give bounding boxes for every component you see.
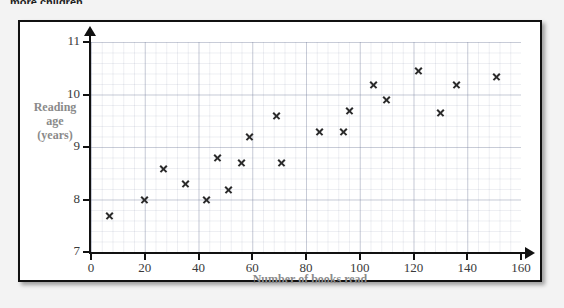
x-tick-140 [466, 253, 468, 260]
data-point [452, 80, 461, 89]
data-point [272, 111, 281, 120]
y-tick-label-11: 11 [60, 33, 80, 49]
plot-grid [91, 42, 521, 252]
data-point [414, 66, 423, 75]
data-point [237, 158, 246, 167]
x-axis [89, 252, 529, 254]
data-point [245, 132, 254, 141]
y-axis-title: Reading age (years) [26, 100, 84, 142]
data-point [369, 80, 378, 89]
x-tick-80 [305, 253, 307, 260]
y-tick-9 [83, 146, 90, 148]
x-tick-label-0: 0 [76, 260, 106, 276]
chart-card: 7891011 020406080100120140160 Reading ag… [18, 20, 542, 282]
data-point [159, 164, 168, 173]
x-tick-160 [520, 253, 522, 260]
data-point [436, 108, 445, 117]
x-tick-20 [144, 253, 146, 260]
x-tick-40 [198, 253, 200, 260]
screenshot-root: more children. 7891011 02040608010012014… [0, 0, 564, 308]
y-tick-11 [83, 41, 90, 43]
y-tick-10 [83, 94, 90, 96]
data-point [277, 158, 286, 167]
data-point [140, 195, 149, 204]
data-point [345, 106, 354, 115]
y-tick-label-7: 7 [60, 243, 80, 259]
x-tick-0 [90, 253, 92, 260]
x-axis-title: Number of books read [160, 272, 460, 287]
y-axis-arrow-icon [84, 26, 96, 36]
data-point [382, 95, 391, 104]
x-tick-100 [359, 253, 361, 260]
y-axis-title-line-2: age [26, 114, 84, 128]
data-point [492, 72, 501, 81]
data-point [105, 211, 114, 220]
data-point [339, 127, 348, 136]
clipped-heading: more children. [10, 0, 86, 4]
data-point [181, 179, 190, 188]
data-point [224, 185, 233, 194]
x-tick-label-160: 160 [506, 260, 536, 276]
y-tick-7 [83, 251, 90, 253]
y-axis-title-line-3: (years) [26, 128, 84, 142]
data-point [202, 195, 211, 204]
x-tick-label-20: 20 [130, 260, 160, 276]
data-point [213, 153, 222, 162]
y-axis-title-line-1: Reading [26, 100, 84, 114]
scatter-plot: 7891011 020406080100120140160 Reading ag… [20, 22, 544, 284]
y-tick-8 [83, 199, 90, 201]
y-tick-label-8: 8 [60, 191, 80, 207]
x-tick-60 [251, 253, 253, 260]
x-tick-120 [413, 253, 415, 260]
y-axis [89, 34, 91, 254]
x-axis-arrow-icon [525, 247, 535, 259]
data-point [315, 127, 324, 136]
